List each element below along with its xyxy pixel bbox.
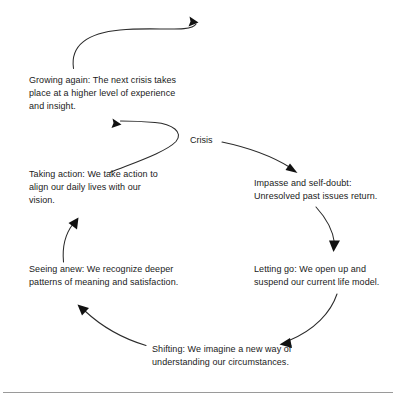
footer-divider (3, 392, 393, 393)
node-impasse-self-doubt: Impasse and self-doubt: Unresolved past … (254, 177, 394, 203)
arrow-growing-again-to-next-crisis (73, 17, 198, 69)
arrow-letting-go-to-shifting (280, 294, 338, 348)
arrow-shifting-to-seeing-anew (78, 305, 147, 346)
cycle-diagram: Crisis Growing again: The next crisis ta… (0, 0, 402, 412)
node-taking-action: Taking action: We take action to align o… (29, 168, 159, 208)
node-letting-go: Letting go: We open up and suspend our c… (254, 263, 402, 289)
node-shifting: Shifting: We imagine a new way of unders… (152, 343, 292, 369)
node-growing-again: Growing again: The next crisis takes pla… (29, 74, 179, 114)
arrow-impasse-to-letting-go (316, 207, 340, 252)
arrow-seeing-anew-to-taking-action (63, 218, 78, 263)
node-seeing-anew: Seeing anew: We recognize deeper pattern… (29, 263, 181, 289)
center-label-crisis: Crisis (190, 134, 250, 147)
arrow-taking-action-to-growing-again (110, 119, 179, 173)
